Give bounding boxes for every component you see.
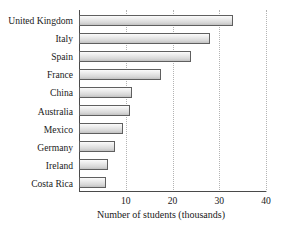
bar	[79, 105, 130, 116]
bar	[79, 141, 115, 152]
y-axis-tick-label: Germany	[37, 142, 73, 154]
y-axis-tick-label: France	[47, 69, 73, 81]
bar-chart: United KingdomItalySpainFranceChinaAustr…	[0, 0, 284, 230]
bar	[79, 87, 132, 98]
x-axis-line	[79, 191, 266, 192]
x-axis-tick-label: 40	[261, 195, 271, 207]
bar	[79, 123, 123, 134]
y-axis-tick-label: Australia	[38, 106, 73, 118]
bar	[79, 159, 108, 170]
cut-off-title	[0, 0, 284, 3]
bar	[79, 33, 210, 44]
bar	[79, 69, 161, 80]
bar	[79, 51, 191, 62]
y-axis-tick-label: Costa Rica	[31, 178, 73, 190]
y-axis-tick-label: China	[50, 87, 73, 99]
bar-series	[79, 11, 266, 192]
x-axis-title: Number of students (thousands)	[0, 209, 284, 220]
plot-area	[79, 11, 266, 192]
y-axis-tick-label: United Kingdom	[8, 15, 73, 27]
y-axis-tick-label: Spain	[51, 51, 73, 63]
x-axis-tick-label: 20	[168, 195, 178, 207]
x-axis-tick-labels: 10203040	[79, 195, 266, 207]
y-axis-tick-label: Ireland	[46, 160, 73, 172]
x-axis-tick-label: 10	[121, 195, 131, 207]
x-axis-title-text: Number of students (thousands)	[59, 209, 225, 220]
bar	[79, 15, 233, 26]
y-axis-tick-label: Mexico	[44, 124, 73, 136]
y-axis-category-labels: United KingdomItalySpainFranceChinaAustr…	[0, 11, 76, 192]
bar	[79, 177, 106, 188]
gridline-40	[266, 10, 267, 192]
x-axis-tick-label: 30	[214, 195, 224, 207]
y-axis-tick-label: Italy	[55, 33, 73, 45]
